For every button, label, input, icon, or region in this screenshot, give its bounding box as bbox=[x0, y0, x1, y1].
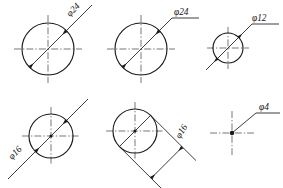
extension-line-lower bbox=[119, 147, 164, 188]
dimension-label-phi16-b: φ16 bbox=[173, 122, 189, 140]
figure-center-mark-phi4: φ4 bbox=[210, 102, 280, 155]
dimension-label-phi4: φ4 bbox=[259, 102, 269, 112]
diameter-arrow-lower-left bbox=[206, 59, 217, 70]
leader-extension-upper bbox=[67, 99, 88, 120]
technical-drawing-canvas: φ24 φ24 φ12 bbox=[0, 0, 283, 188]
leader-line bbox=[248, 24, 252, 28]
diameter-arrow-upper-right bbox=[239, 28, 248, 37]
dimension-label-phi24-a: φ24 bbox=[64, 1, 82, 19]
figure-circle-phi16-extended: φ16 bbox=[6, 99, 88, 179]
offset-dimension-line bbox=[151, 147, 182, 178]
extension-line-upper bbox=[151, 115, 196, 160]
figure-circle-phi24-horizontal: φ24 bbox=[107, 7, 199, 83]
dimension-label-phi16-a: φ16 bbox=[6, 144, 24, 162]
figure-circle-phi16-offset: φ16 bbox=[106, 102, 196, 188]
dimension-label-phi24-b: φ24 bbox=[174, 7, 189, 17]
figure-circle-phi12: φ12 bbox=[206, 13, 279, 70]
figure-circle-phi24-aligned: φ24 bbox=[14, 1, 92, 83]
dimension-label-phi12: φ12 bbox=[252, 13, 267, 23]
leader-line bbox=[232, 113, 256, 133]
drawing-sheet: φ24 φ24 φ12 bbox=[0, 0, 283, 188]
leader-line bbox=[159, 18, 172, 31]
